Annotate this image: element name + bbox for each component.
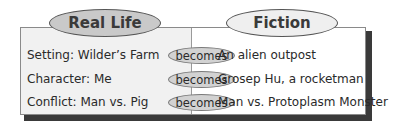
fiction-conflict: Man vs. Protoplasm Monster (218, 95, 388, 109)
comparison-row: Conflict: Man vs. Pig becomes Man vs. Pr… (21, 93, 365, 113)
comparison-table: Setting: Wilder’s Farm becomes An alien … (20, 27, 366, 115)
real-life-setting: Setting: Wilder’s Farm (27, 48, 159, 62)
real-life-conflict: Conflict: Man vs. Pig (27, 95, 148, 109)
fiction-setting: An alien outpost (218, 48, 316, 62)
comparison-row: Character: Me becomes Grosep Hu, a rocke… (21, 70, 365, 90)
fiction-character: Grosep Hu, a rocketman (218, 72, 364, 86)
fiction-header: Fiction (226, 9, 338, 37)
real-life-header: Real Life (49, 9, 161, 37)
comparison-row: Setting: Wilder’s Farm becomes An alien … (21, 46, 365, 66)
real-life-character: Character: Me (27, 72, 112, 86)
